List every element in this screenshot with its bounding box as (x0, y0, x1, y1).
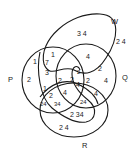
region-label: 4 (94, 90, 98, 97)
region-label: 4 (63, 89, 67, 96)
region-label: 7 (45, 59, 49, 66)
region-label: 2 (98, 65, 102, 72)
set-label-r: R (82, 141, 88, 150)
region-label: 2 (58, 77, 62, 84)
set-label-w: W (111, 17, 119, 26)
region-label: 34 (54, 101, 61, 107)
region-label: 24 (80, 99, 87, 105)
region-label: 2 (27, 76, 31, 83)
region-label: 1 (43, 85, 47, 92)
region-label: 1 (33, 58, 37, 65)
set-label-p: P (8, 75, 13, 84)
region-label: 2 4 (59, 124, 69, 131)
region-label: 1 (51, 51, 55, 58)
region-label: 24 (40, 101, 47, 107)
region-label: 2 (70, 76, 74, 83)
region-label: 3 4 (77, 30, 87, 37)
region-label: 2 (77, 69, 80, 75)
region-label: 4 (86, 53, 90, 60)
region-label: 2 4 (116, 38, 126, 45)
region-label: 2 (49, 92, 53, 99)
region-label: 4 (76, 81, 80, 88)
region-label: 3 (45, 69, 49, 76)
venn-diagram: P Q R W 3 4 2 4 1 1 7 3 2 4 2 4 2 2 4 2 … (0, 0, 138, 157)
set-w-outline (43, 14, 115, 73)
region-label: 4 (104, 77, 108, 84)
region-label: 2 34 (70, 111, 84, 118)
set-label-q: Q (122, 73, 128, 82)
region-label: 2 (86, 77, 90, 84)
